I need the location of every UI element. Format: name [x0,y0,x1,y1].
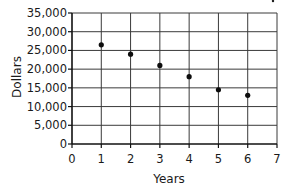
x-tick-label: 7 [273,152,280,166]
x-tick-label: 2 [127,152,134,166]
cropped-title-fragment [272,0,274,2]
x-tick-label: 0 [68,152,75,166]
y-tick-label: 35,000 [27,6,67,20]
x-tick-label: 6 [244,152,251,166]
y-tick-label: 20,000 [27,62,67,76]
y-tick-label: 25,000 [27,43,67,57]
x-axis-ticks: 01234567 [68,144,280,166]
data-point [157,63,162,68]
x-tick-label: 5 [215,152,222,166]
x-tick-label: 1 [98,152,105,166]
x-tick-label: 3 [156,152,163,166]
chart-axes [72,13,277,144]
y-axis-ticks: 05,00010,00015,00020,00025,00030,00035,0… [27,6,72,151]
x-tick-label: 4 [185,152,192,166]
scatter-chart: 05,00010,00015,00020,00025,00030,00035,0… [0,0,285,189]
chart-grid [72,13,277,144]
y-tick-label: 5,000 [34,118,67,132]
data-point [99,42,104,47]
y-tick-label: 15,000 [27,81,67,95]
y-tick-label: 0 [60,137,67,151]
y-axis-title: Dollars [10,56,24,98]
data-point [245,93,250,98]
data-point [187,74,192,79]
y-tick-label: 10,000 [27,100,67,114]
data-point [216,87,221,92]
y-tick-label: 30,000 [27,25,67,39]
data-point [128,52,133,57]
x-axis-title: Years [152,172,185,186]
